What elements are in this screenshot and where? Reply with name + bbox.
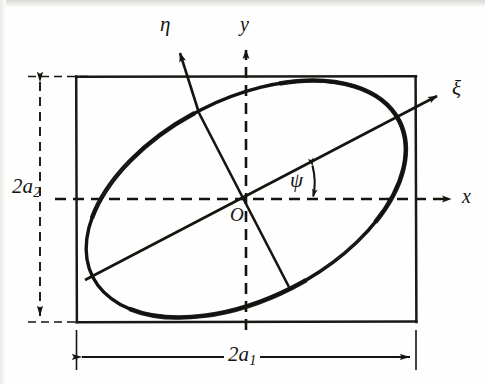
height-dimension-label: 2a2 — [12, 176, 40, 200]
figure-canvas: η y ξ x ψ O 2a2 2a1 — [0, 0, 485, 384]
width-dimension-subscript: 1 — [249, 352, 256, 368]
width-dimension-text: 2a — [228, 342, 249, 366]
psi-angle-indicator — [313, 166, 315, 197]
height-dimension-subscript: 2 — [33, 184, 40, 200]
x-axis-label: x — [462, 186, 471, 206]
eta-axis-label: η — [160, 14, 170, 35]
eta-axis — [180, 53, 289, 287]
origin-label: O — [230, 205, 244, 224]
y-axis-label: y — [240, 14, 249, 34]
diagram-svg — [0, 0, 485, 384]
height-dimension-text: 2a — [12, 174, 33, 198]
psi-angle-label: ψ — [290, 170, 303, 191]
width-dimension-label: 2a1 — [224, 344, 260, 368]
xi-axis — [85, 96, 437, 280]
xi-axis-label: ξ — [452, 78, 461, 99]
